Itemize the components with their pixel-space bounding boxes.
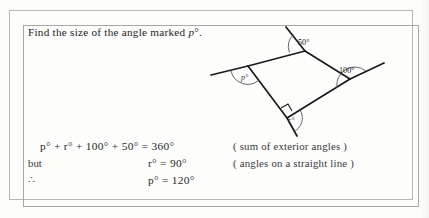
solution-row: p° + r° + 100° + 50° = 360° ( sum of ext… <box>28 140 403 157</box>
angle-label-50: 50° <box>298 38 309 47</box>
side-left <box>248 66 287 118</box>
worked-solution: p° + r° + 100° + 50° = 360° ( sum of ext… <box>28 140 403 191</box>
solution-lead: ∴ <box>28 174 35 187</box>
quadrilateral-figure: 50° 100° p° r° <box>205 22 420 142</box>
arc-50-degrees <box>288 35 293 53</box>
side-top <box>248 51 305 66</box>
right-angle-marker <box>281 104 292 111</box>
angle-label-r: r° <box>288 116 295 125</box>
extension-at-right-vertex <box>350 63 384 79</box>
side-lower-right <box>287 79 350 118</box>
page-background: Find the size of the angle marked p°. <box>0 0 429 218</box>
solution-reason: ( angles on a straight line ) <box>233 157 354 169</box>
solution-equation: p° + r° + 100° + 50° = 360° <box>40 140 174 152</box>
solution-row: but r° = 90° ( angles on a straight line… <box>28 157 403 174</box>
scan-edge-shading <box>419 0 429 218</box>
solution-row: ∴ p° = 120° <box>28 174 403 191</box>
solution-equation: r° = 90° <box>148 157 187 169</box>
question-prefix: Find the size of the angle marked <box>28 26 188 38</box>
solution-equation: p° = 120° <box>148 174 195 186</box>
angle-label-p: p° <box>240 73 249 82</box>
question-prompt: Find the size of the angle marked p°. <box>28 26 202 38</box>
solution-lead: but <box>28 157 42 169</box>
angle-label-100: 100° <box>339 66 355 75</box>
solution-reason: ( sum of exterior angles ) <box>233 140 347 152</box>
question-suffix: °. <box>194 26 202 38</box>
geometry-diagram: 50° 100° p° r° <box>205 22 420 142</box>
